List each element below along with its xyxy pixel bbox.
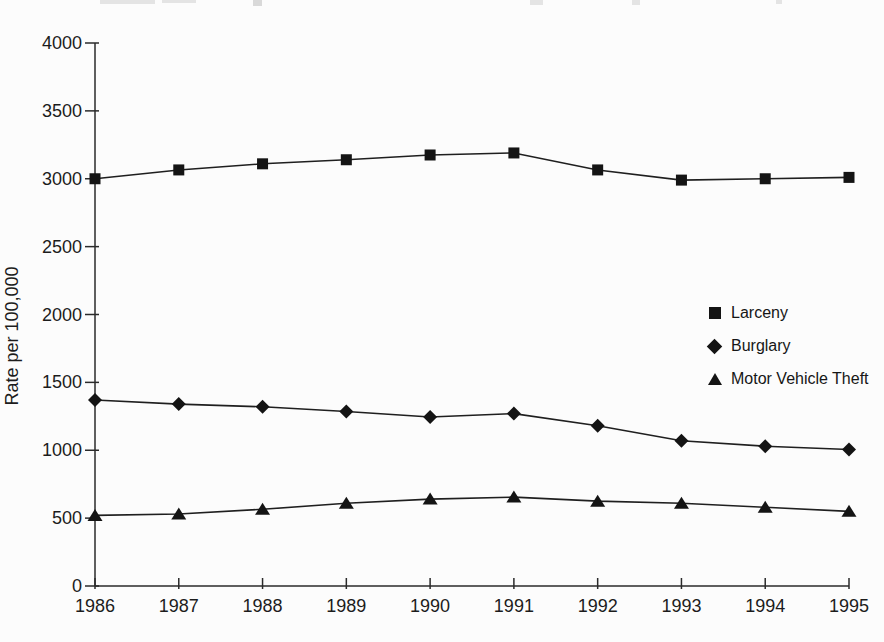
x-tick-label: 1987	[159, 596, 199, 616]
y-tick-label: 0	[72, 576, 82, 596]
triangle-marker-icon	[708, 373, 722, 385]
y-tick-label: 2500	[42, 237, 82, 257]
diamond-marker-icon	[423, 410, 437, 424]
diamond-marker-icon	[842, 443, 856, 457]
x-tick-label: 1994	[745, 596, 785, 616]
y-tick-label: 3000	[42, 169, 82, 189]
legend-label-motor-vehicle-theft: Motor Vehicle Theft	[731, 370, 869, 388]
legend-item-motor-vehicle-theft: Motor Vehicle Theft	[706, 368, 869, 390]
legend-item-larceny: Larceny	[706, 302, 869, 324]
series-larceny	[90, 147, 855, 185]
square-marker-icon	[844, 172, 855, 183]
diamond-marker-icon	[707, 338, 723, 354]
series-line	[95, 153, 849, 180]
square-marker-icon	[90, 173, 101, 184]
x-tick-label: 1993	[661, 596, 701, 616]
diamond-marker-icon	[591, 419, 605, 433]
square-marker-icon	[173, 164, 184, 175]
legend-label-burglary: Burglary	[731, 337, 791, 355]
square-marker-icon	[760, 173, 771, 184]
series-burglary	[88, 393, 856, 457]
square-marker-icon	[425, 149, 436, 160]
x-tick-label: 1991	[494, 596, 534, 616]
diamond-marker-icon	[256, 400, 270, 414]
x-tick-label: 1990	[410, 596, 450, 616]
y-axis-title: Rate per 100,000	[2, 266, 22, 405]
legend-label-larceny: Larceny	[731, 304, 788, 322]
x-tick-label: 1988	[243, 596, 283, 616]
square-marker-icon	[341, 154, 352, 165]
square-marker-icon	[508, 147, 519, 158]
square-marker-icon	[709, 307, 721, 319]
series-line	[95, 497, 849, 515]
diamond-marker-icon	[339, 405, 353, 419]
chart-legend: Larceny Burglary Motor Vehicle Theft	[706, 302, 869, 390]
diamond-marker-icon	[674, 434, 688, 448]
y-tick-label: 4000	[42, 33, 82, 53]
x-tick-label: 1986	[75, 596, 115, 616]
diamond-marker-icon	[507, 407, 521, 421]
square-marker-icon	[676, 175, 687, 186]
diamond-marker-icon	[172, 397, 186, 411]
legend-item-burglary: Burglary	[706, 335, 869, 357]
square-marker-icon	[257, 158, 268, 169]
x-tick-label: 1992	[578, 596, 618, 616]
y-tick-label: 1000	[42, 440, 82, 460]
series-motor-vehicle-theft	[88, 491, 857, 521]
x-tick-label: 1989	[326, 596, 366, 616]
y-tick-label: 3500	[42, 101, 82, 121]
y-tick-label: 2000	[42, 305, 82, 325]
square-marker-icon	[592, 164, 603, 175]
x-tick-label: 1995	[829, 596, 869, 616]
diamond-marker-icon	[88, 393, 102, 407]
series-line	[95, 400, 849, 450]
y-tick-label: 1500	[42, 372, 82, 392]
diamond-marker-icon	[758, 439, 772, 453]
y-tick-label: 500	[52, 508, 82, 528]
scanned-chart-page: 0500100015002000250030003500400019861987…	[0, 0, 884, 642]
